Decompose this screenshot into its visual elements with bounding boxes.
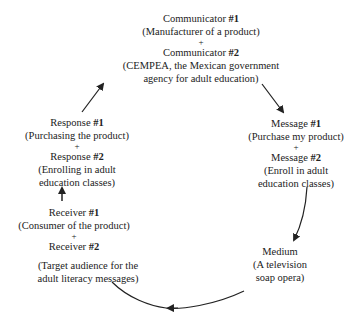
arrow-message-to-medium bbox=[294, 187, 307, 240]
node-response: Response #1 (Purchasing the product) + R… bbox=[16, 116, 138, 189]
message-2-desc-line2: education classes) bbox=[238, 177, 354, 190]
response-1-label: Response bbox=[50, 117, 93, 128]
arrow-medium-to-receiver bbox=[112, 282, 244, 308]
node-communicator: Communicator #1 (Manufacturer of a produ… bbox=[96, 12, 306, 85]
communicator-2-desc-line1: (CEMPEA, the Mexican government bbox=[96, 59, 306, 72]
communicator-1-label: Communicator bbox=[163, 13, 229, 24]
message-1-number: #1 bbox=[310, 118, 321, 129]
receiver-2-number: #2 bbox=[89, 241, 100, 252]
arrow-communicator-to-message bbox=[262, 84, 283, 112]
plus-sign: + bbox=[96, 38, 306, 46]
node-message: Message #1 (Purchase my product) + Messa… bbox=[238, 117, 354, 190]
plus-sign: + bbox=[16, 142, 138, 150]
plus-sign: + bbox=[10, 232, 138, 240]
message-1-label: Message bbox=[271, 118, 310, 129]
node-receiver: Receiver #1 (Consumer of the product) + … bbox=[10, 206, 138, 253]
message-2-label: Message bbox=[271, 152, 310, 163]
response-2-desc-line2: education classes) bbox=[16, 176, 138, 189]
medium-label: Medium bbox=[242, 245, 318, 258]
medium-desc-line2: soap opera) bbox=[242, 271, 318, 284]
receiver-2-desc-line2: adult literacy messages) bbox=[26, 272, 150, 285]
response-2-number: #2 bbox=[93, 151, 104, 162]
node-medium: Medium (A television soap opera) bbox=[242, 245, 318, 284]
plus-sign: + bbox=[238, 143, 354, 151]
node-receiver-desc2: (Target audience for the adult literacy … bbox=[26, 259, 150, 285]
communicator-2-desc-line2: agency for adult education) bbox=[96, 72, 306, 85]
communicator-2-number: #2 bbox=[229, 47, 240, 58]
medium-desc-line1: (A television bbox=[242, 258, 318, 271]
receiver-2-label: Receiver bbox=[49, 241, 89, 252]
message-2-desc-line1: (Enroll in adult bbox=[238, 164, 354, 177]
response-1-number: #1 bbox=[93, 117, 104, 128]
communicator-2-label: Communicator bbox=[163, 47, 229, 58]
message-2-number: #2 bbox=[310, 152, 321, 163]
arrow-response-to-communicator bbox=[82, 84, 103, 112]
receiver-2-desc-line1: (Target audience for the bbox=[26, 259, 150, 272]
response-2-label: Response bbox=[50, 151, 93, 162]
receiver-1-number: #1 bbox=[89, 207, 100, 218]
receiver-1-label: Receiver bbox=[49, 207, 89, 218]
response-2-desc-line1: (Enrolling in adult bbox=[16, 163, 138, 176]
communicator-1-number: #1 bbox=[229, 13, 240, 24]
